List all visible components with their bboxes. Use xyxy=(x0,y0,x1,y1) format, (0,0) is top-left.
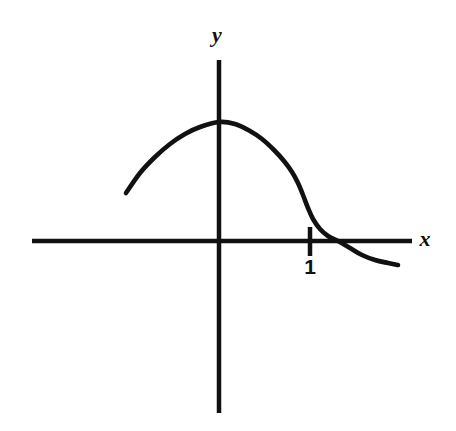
y-axis-label: y xyxy=(204,24,230,46)
graph-figure: y x 1 xyxy=(0,0,456,431)
x-tick-label-1: 1 xyxy=(297,256,323,277)
function-curve xyxy=(126,122,398,265)
axes-group xyxy=(32,60,412,413)
curve-group xyxy=(126,122,398,265)
x-axis-label: x xyxy=(412,228,438,250)
coordinate-plot xyxy=(0,0,456,431)
